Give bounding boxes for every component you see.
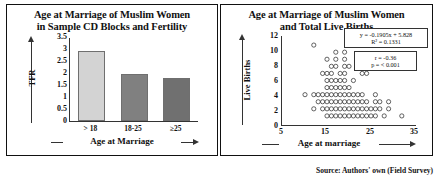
scatter-chart-title-line1: Age at Marriage of Muslim Women xyxy=(221,9,432,21)
scatter-point xyxy=(373,114,377,118)
scatter-point xyxy=(329,100,333,104)
scatter-point xyxy=(338,93,342,97)
scatter-point xyxy=(334,57,338,61)
bar-slot xyxy=(113,38,156,121)
scatter-point xyxy=(343,93,347,97)
scatter-point xyxy=(360,71,364,75)
bar-item[interactable] xyxy=(121,74,148,121)
scatter-point xyxy=(334,114,338,118)
figure-container: Age at Marriage of Muslim Women in Sampl… xyxy=(0,0,439,177)
scatter-point xyxy=(360,100,364,104)
bar-ytick-3: 3 xyxy=(63,44,67,53)
regression-equation: y = -0.1905x + 5.828 xyxy=(348,31,424,39)
scatter-point xyxy=(343,107,347,111)
panels-row: Age at Marriage of Muslim Women in Sampl… xyxy=(6,4,433,156)
scatter-point xyxy=(325,85,329,89)
scatter-point xyxy=(338,71,342,75)
scatter-point xyxy=(356,114,360,118)
bar-plot-area xyxy=(69,38,198,122)
bar-item[interactable] xyxy=(78,51,105,121)
scatter-point xyxy=(365,114,369,118)
scatter-point xyxy=(338,78,342,82)
scatter-point xyxy=(347,114,351,118)
scatter-point xyxy=(312,93,316,97)
scatter-point xyxy=(382,114,386,118)
scatter-ytick-8: 8 xyxy=(274,61,278,70)
scatter-point xyxy=(347,85,351,89)
scatter-point xyxy=(329,71,333,75)
scatter-point xyxy=(347,100,351,104)
scatter-point xyxy=(369,107,373,111)
scatter-chart-panel: Age at Marriage of Muslim Women and Tota… xyxy=(220,4,433,156)
scatter-point xyxy=(325,114,329,118)
scatter-point xyxy=(343,64,347,68)
bar-x-axis-label: Age at Marriage xyxy=(63,136,181,146)
scatter-point xyxy=(360,93,364,97)
scatter-point xyxy=(329,85,333,89)
scatter-point xyxy=(334,93,338,97)
scatter-point xyxy=(316,100,320,104)
bar-category-0: > 18 xyxy=(69,124,112,136)
bar-ytick-2.5: 2.5 xyxy=(57,56,67,65)
bar-ytick-0.5: 0.5 xyxy=(57,104,67,113)
correlation-pvalue: p = < 0.001 xyxy=(358,61,413,69)
scatter-point xyxy=(351,93,355,97)
bar-slot xyxy=(70,38,113,121)
bar-y-ticks: 3.5 3 2.5 2 1.5 1 0.5 0 xyxy=(45,32,67,127)
scatter-point xyxy=(351,100,355,104)
scatter-ytick-12: 12 xyxy=(270,31,278,40)
bar-series xyxy=(70,38,198,121)
scatter-point xyxy=(387,100,391,104)
scatter-point xyxy=(329,78,333,82)
bar-chart-panel: Age at Marriage of Muslim Women in Sampl… xyxy=(6,4,218,156)
bar-item[interactable] xyxy=(163,78,190,121)
scatter-point xyxy=(312,107,316,111)
scatter-point xyxy=(325,107,329,111)
scatter-point xyxy=(373,93,377,97)
regression-r-squared: R² = 0.1331 xyxy=(348,38,424,46)
scatter-point xyxy=(338,107,342,111)
correlation-coefficient: r = -0.36 xyxy=(358,54,413,62)
scatter-point xyxy=(325,100,329,104)
scatter-point xyxy=(303,93,307,97)
scatter-point xyxy=(334,85,338,89)
regression-equation-box: y = -0.1905x + 5.828 R² = 0.1331 xyxy=(344,28,428,48)
scatter-point xyxy=(325,78,329,82)
scatter-point xyxy=(329,93,333,97)
scatter-points-layer xyxy=(282,36,416,125)
scatter-point xyxy=(321,93,325,97)
scatter-point xyxy=(347,64,351,68)
bar-y-axis-label: TFR xyxy=(27,58,37,98)
bar-ytick-0: 0 xyxy=(63,116,67,125)
bar-chart-title-line2: in Sample CD Blocks and Fertility xyxy=(7,21,217,33)
scatter-point xyxy=(343,71,347,75)
scatter-ytick-6: 6 xyxy=(274,76,278,85)
scatter-point xyxy=(321,71,325,75)
scatter-y-axis-label: Live Births xyxy=(242,53,252,107)
scatter-x-axis-label: Age at marriage xyxy=(279,138,379,148)
scatter-point xyxy=(347,107,351,111)
scatter-point xyxy=(329,64,333,68)
scatter-ytick-2: 2 xyxy=(274,106,278,115)
scatter-xtick-15: 15 xyxy=(317,127,333,136)
scatter-point xyxy=(312,43,316,47)
scatter-point xyxy=(334,100,338,104)
scatter-point xyxy=(321,100,325,104)
source-note: Source: Authors' own (Field Survey) xyxy=(316,166,433,175)
scatter-point xyxy=(373,107,377,111)
scatter-point xyxy=(343,100,347,104)
bar-category-1: 18-25 xyxy=(112,124,155,136)
scatter-point xyxy=(325,71,329,75)
bar-chart-title-line1: Age at Marriage of Muslim Women xyxy=(7,9,217,21)
scatter-point xyxy=(387,107,391,111)
bar-slot xyxy=(155,38,198,121)
scatter-point xyxy=(351,78,355,82)
scatter-ytick-4: 4 xyxy=(274,91,278,100)
scatter-point xyxy=(356,93,360,97)
bar-ytick-2: 2 xyxy=(63,68,67,77)
bar-ytick-1.5: 1.5 xyxy=(57,80,67,89)
scatter-point xyxy=(321,107,325,111)
scatter-point xyxy=(347,93,351,97)
scatter-point xyxy=(329,107,333,111)
scatter-xtick-5: 5 xyxy=(273,127,289,136)
